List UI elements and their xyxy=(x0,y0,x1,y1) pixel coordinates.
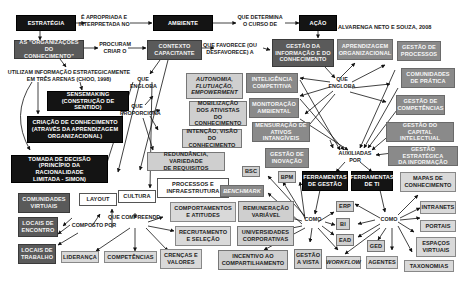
node-espacos-virtuais: ESPAÇOS VIRTUAIS xyxy=(416,237,456,257)
node-ferramentas-ti: FERRAMENTAS DE TI xyxy=(351,171,393,191)
label-compreende: QUE COMPREENDE xyxy=(108,214,160,221)
node-estrategia: ESTRATÉGIA xyxy=(16,15,76,31)
node-bi: BI xyxy=(336,218,350,230)
label-apropriada: É APROPRIADA E INTERPRETADA NO xyxy=(76,14,132,28)
node-locais-encontro: LOCAIS DE ENCONTRO xyxy=(18,217,58,237)
label-favorece: QUE FAVORECE (OU DESFAVORECE) A xyxy=(200,42,260,56)
citation: ALVARENGA NETO E SOUZA, 2008 xyxy=(338,24,431,30)
label-determina: QUE DETERMINA O CURSO DE xyxy=(234,14,286,28)
node-tomada-decisao: TOMADA DE DECISÃO (PRINCÍPIO DA RACIONAL… xyxy=(11,155,108,183)
node-ead: EAD xyxy=(336,234,354,246)
node-layout: LAYOUT xyxy=(79,193,117,206)
node-comunidades-pratica: COMUNIDADES DE PRÁTICA xyxy=(401,68,455,88)
node-gestao-informacao: GESTÃO DA INFORMAÇÃO E DO CONHECIMENTO xyxy=(272,39,334,67)
node-ged: GED xyxy=(367,240,385,252)
label-composto: COMPOSTO POR xyxy=(70,222,118,229)
node-inovacao: GESTÃO DE INOVAÇÃO xyxy=(265,148,309,168)
node-bsc: BSC xyxy=(242,166,260,177)
label-como-ti: COMO xyxy=(376,216,402,223)
node-intranets: INTRANETS xyxy=(420,201,456,214)
node-redundancia: REDUNDÂNCIA, VARIEDADE DE REQUISITOS xyxy=(147,152,225,171)
node-gestao-estrategica: GESTÃO ESTRATÉGICA DA INFORMAÇÃO xyxy=(388,146,458,166)
node-aprendizagem: APRENDIZAGEM ORGANIZACIONAL xyxy=(337,39,393,60)
node-mensuracao: MENSURAÇÃO DE ATIVOS INTANGÍVEIS xyxy=(252,122,310,142)
node-mapas: MAPAS DE CONHECIMENTO xyxy=(400,172,456,192)
node-workflow: WORKFLOW xyxy=(326,256,361,269)
node-bpm: BPM xyxy=(278,171,296,183)
node-ferramentas-gestao: FERRAMENTAS DE GESTÃO xyxy=(302,171,348,191)
label-utilizam: UTILIZAM INFORMAÇÃO ESTRATEGICAMENTE EM … xyxy=(4,69,134,83)
node-portais: PORTAIS xyxy=(420,220,456,232)
node-recrutamento: RECRUTAMENTO E SELEÇÃO xyxy=(175,226,231,246)
label-auxiliadas: AUXILIADAS POR xyxy=(335,150,375,164)
label-engloba-contexto: QUE ENGLOBA xyxy=(130,76,156,90)
node-monitoracao: MONITORAÇÃO AMBIENTAL xyxy=(249,98,299,118)
node-erp: ERP xyxy=(336,201,354,212)
node-cultura: CULTURA xyxy=(118,190,156,203)
node-crencas: CRENÇAS E VALORES xyxy=(160,249,202,269)
node-comunidades-virtuais: COMUNIDADES VIRTUAIS xyxy=(18,193,70,213)
node-acao: AÇÃO xyxy=(299,15,337,31)
node-organizacoes: AS "ORGANIZAÇÕES DO CONHECIMENTO" xyxy=(14,40,84,59)
node-locais-trabalho: LOCAIS DE TRABALHO xyxy=(18,244,56,264)
node-gestao-competencias: GESTÃO DE COMPETÊNCIAS xyxy=(396,95,445,115)
node-gestao-processos: GESTÃO DE PROCESSOS xyxy=(397,41,441,61)
node-benchmark: BENCHMARK xyxy=(220,185,264,197)
node-agentes: AGENTES xyxy=(366,256,398,269)
label-como-gestao: COMO xyxy=(300,216,326,223)
node-incentivo: INCENTIVO AO COMPARTILHAMENTO xyxy=(218,250,288,270)
node-competencias: COMPETÊNCIAS xyxy=(104,251,157,263)
node-gestao-vista: GESTÃO A VISTA xyxy=(294,249,322,269)
node-remuneracao: REMUNERAÇÃO VARIÁVEL xyxy=(238,201,294,222)
node-processos-infra: PROCESSOS E INFRAESTRUTURA xyxy=(157,178,229,198)
node-mobilizacao: MOBILIZAÇÃO DOS ATIVISTAS DO CONHECIMENT… xyxy=(189,101,247,126)
node-sensemaking: SENSEMAKING (CONSTRUÇÃO DE SENTIDO) xyxy=(47,91,129,111)
node-lideranca: LIDERANÇA xyxy=(61,251,99,263)
node-capital-intelectual: GESTÃO DO CAPITAL INTELECTUAL xyxy=(386,122,454,142)
node-comportamentos: COMPORTAMENTOS E ATITUDES xyxy=(170,202,236,222)
node-intencao: INTENÇÃO, VISÃO DO CONHECIMENTO xyxy=(182,129,242,148)
node-contexto: CONTEXTO CAPACITANTE xyxy=(147,40,202,60)
node-universidades: UNIVERSIDADES CORPORATIVAS xyxy=(237,226,294,246)
node-criacao: CRIAÇÃO DE CONHECIMENTO (ATRAVÉS DA APRE… xyxy=(27,116,123,143)
node-autonomia: AUTONOMIA, FLUTUAÇÃO, EMPOWERMENT xyxy=(186,73,243,99)
label-procuram: PROCURAM CRIAR O xyxy=(98,41,132,55)
node-taxonomias: TAXONOMIAS xyxy=(404,260,454,272)
label-engloba-gestao: QUE ENGLOBA xyxy=(327,76,357,90)
node-ambiente: AMBIENTE xyxy=(153,15,213,31)
node-inteligencia: INTELIGÊNCIA COMPETITIVA xyxy=(246,73,298,93)
